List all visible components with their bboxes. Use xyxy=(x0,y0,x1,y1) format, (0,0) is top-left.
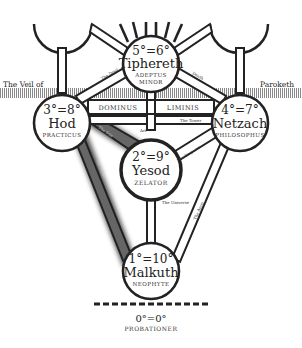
hod-name: Hod xyxy=(48,116,76,131)
probationer-grade: 0°=0° xyxy=(135,313,166,324)
hod-title: Practicus xyxy=(43,132,82,138)
veil-left-label: The Veil of xyxy=(3,80,45,89)
malkuth-name: Malkuth xyxy=(123,265,179,280)
tree-of-life-diagram: The Veil of Paroketh 5°=6° Tiphereth Ade… xyxy=(0,0,302,348)
yesod-name: Yesod xyxy=(131,163,170,178)
path-label-art: Art xyxy=(139,128,147,133)
dominus-label: Dominus xyxy=(99,104,138,112)
yesod-title: Zelator xyxy=(134,179,167,186)
netzach-title: Philosophus xyxy=(215,132,265,138)
probationer-title: Probationer xyxy=(125,325,178,332)
tiphereth-name: Tiphereth xyxy=(119,56,184,71)
netzach-grade: 4°=7° xyxy=(221,103,258,117)
tiphereth-title-1: Adeptus xyxy=(134,72,167,78)
tiphereth-title-2: Minor xyxy=(139,79,163,85)
hod-grade: 3°=8° xyxy=(43,103,80,117)
netzach-name: Netzach xyxy=(213,116,268,131)
yesod-grade: 2°=9° xyxy=(132,150,169,164)
path-label-universe: The Universe xyxy=(162,200,190,205)
liminis-label: Liminis xyxy=(167,104,199,112)
path-label-tower: The Tower xyxy=(180,118,201,123)
dominus-liminis-divider xyxy=(147,100,155,114)
malkuth-grade: 1°=10° xyxy=(129,252,174,266)
malkuth-title: Neophyte xyxy=(132,281,169,287)
veil-right-label: Paroketh xyxy=(260,80,294,89)
